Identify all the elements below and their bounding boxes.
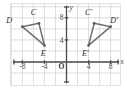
vertex-point-e <box>43 44 46 47</box>
vertex-label-d: D <box>5 16 12 25</box>
y-tick-label: 4 <box>60 36 64 45</box>
vertex-label-d-prime: D' <box>109 16 118 25</box>
vertex-point-e-prime <box>87 44 90 47</box>
origin-label: O <box>58 62 64 71</box>
vertex-label-e: E <box>40 49 46 58</box>
y-axis-name: y <box>68 3 73 12</box>
coordinate-plane-figure: -8-44848Oxy CDEC'D'E' <box>0 0 127 89</box>
vertex-label-c: C <box>31 8 37 17</box>
vertex-point-c-prime <box>93 22 96 25</box>
vertex-point-c <box>38 22 41 25</box>
y-tick-label: 8 <box>60 13 64 22</box>
vertex-label-e-prime: E' <box>81 49 89 58</box>
coordinate-plot: -8-44848Oxy CDEC'D'E' <box>0 0 127 89</box>
vertex-point-d-prime <box>109 25 112 28</box>
vertex-label-c-prime: C' <box>85 8 92 17</box>
plot-background <box>0 0 127 89</box>
x-axis-name: x <box>119 57 124 66</box>
vertex-point-d <box>21 25 24 28</box>
